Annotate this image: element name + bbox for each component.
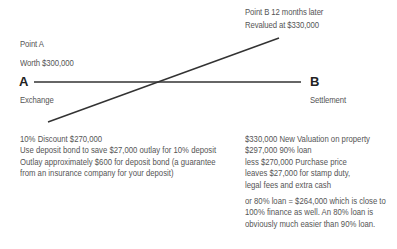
left-notes: 10% Discount $270,000 Use deposit bond t… xyxy=(20,134,216,180)
left-note-line: 10% Discount $270,000 xyxy=(20,134,216,145)
right-notes: $330,000 New Valuation on property $297,… xyxy=(245,134,370,191)
right-note-line: or 80% loan = $264,000 which is close to xyxy=(245,196,386,207)
right-note-line: legal fees and extra cash xyxy=(245,180,370,191)
point-a-title: Point A xyxy=(20,39,44,51)
point-b-marker: B xyxy=(310,74,319,89)
right-notes-2: or 80% loan = $264,000 which is close to… xyxy=(245,196,386,230)
value-growth-line xyxy=(48,38,279,122)
right-note-line: 100% finance as well. An 80% loan is xyxy=(245,207,386,218)
point-a-marker: A xyxy=(19,74,28,89)
left-note-line: Use deposit bond to save $27,000 outlay … xyxy=(20,145,216,156)
point-b-value: Revalued at $330,000 xyxy=(245,20,319,32)
right-note-line: $297,000 90% loan xyxy=(245,145,370,156)
point-a-event: Exchange xyxy=(20,95,54,107)
left-note-line: Outlay approximately $600 for deposit bo… xyxy=(20,157,216,168)
point-a-value: Worth $300,000 xyxy=(20,58,74,70)
point-b-event: Settlement xyxy=(310,95,346,107)
right-note-line: $330,000 New Valuation on property xyxy=(245,134,370,145)
right-note-line: less $270,000 Purchase price xyxy=(245,157,370,168)
left-note-line: from an insurance company for your depos… xyxy=(20,168,216,179)
right-note-line: obviously much easier than 90% loan. xyxy=(245,219,386,230)
point-b-title: Point B 12 months later xyxy=(245,7,323,19)
right-note-line: leaves $27,000 for stamp duty, xyxy=(245,168,370,179)
